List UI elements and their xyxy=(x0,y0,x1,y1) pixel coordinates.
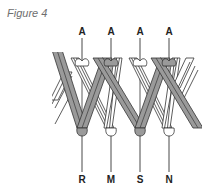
bottom-lines xyxy=(82,136,169,172)
bottom-label-m: M xyxy=(104,174,118,185)
bottom-knots xyxy=(77,128,174,136)
bottom-label-s: S xyxy=(133,174,147,185)
top-label-1: A xyxy=(75,26,89,37)
bottom-label-n: N xyxy=(162,174,176,185)
top-label-2: A xyxy=(104,26,118,37)
top-label-3: A xyxy=(133,26,147,37)
top-label-4: A xyxy=(162,26,176,37)
bottom-label-r: R xyxy=(75,174,89,185)
